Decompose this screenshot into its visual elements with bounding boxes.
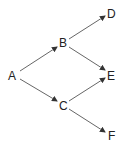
node-d: D [107, 7, 116, 21]
node-e: E [107, 69, 115, 83]
edge-a-c [20, 79, 57, 101]
edge-a-b [20, 47, 57, 71]
edge-c-f [69, 109, 105, 132]
edge-b-d [69, 16, 105, 39]
node-c: C [59, 99, 68, 113]
edge-b-e [69, 47, 105, 70]
edge-c-e [69, 78, 105, 101]
node-f: F [108, 129, 115, 143]
node-a: A [8, 69, 16, 83]
tree-diagram: A B C D E F [0, 0, 124, 144]
node-b: B [59, 36, 67, 50]
